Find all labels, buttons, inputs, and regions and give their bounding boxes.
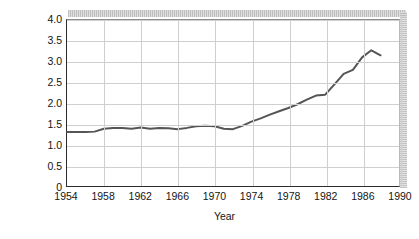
- x-axis-tick-label: 1974: [240, 190, 263, 202]
- x-axis-tick-label: 1966: [166, 190, 189, 202]
- horizontal-gridline: [67, 167, 399, 168]
- x-axis-tick-label: 1970: [203, 190, 226, 202]
- x-axis-tick-label: 1990: [388, 190, 411, 202]
- horizontal-gridline: [67, 20, 399, 21]
- chart-screenshot: Interest on national debt held by public…: [0, 0, 419, 239]
- horizontal-gridline: [67, 83, 399, 84]
- x-axis-tick-label: 1982: [314, 190, 337, 202]
- vertical-gridline: [104, 20, 105, 186]
- x-axis-tick-label: 1978: [277, 190, 300, 202]
- y-axis-tick-label: 3.0: [34, 55, 62, 67]
- x-axis-tick-label: 1954: [54, 190, 77, 202]
- top-shading-band: [68, 10, 406, 17]
- y-axis-tick-label: 4.0: [34, 13, 62, 25]
- vertical-gridline: [215, 20, 216, 186]
- horizontal-gridline: [67, 62, 399, 63]
- y-axis-tick-label: 2.0: [34, 97, 62, 109]
- plot-area: [66, 19, 400, 187]
- vertical-gridline: [178, 20, 179, 186]
- y-axis-tick-label: 0.5: [34, 160, 62, 172]
- vertical-gridline: [364, 20, 365, 186]
- horizontal-gridline: [67, 41, 399, 42]
- horizontal-gridline: [67, 104, 399, 105]
- x-axis-tick-label: 1962: [129, 190, 152, 202]
- x-axis-tick-label: 1958: [91, 190, 114, 202]
- y-axis-tick-label: 3.5: [34, 34, 62, 46]
- y-axis-tick-label: 1.0: [34, 139, 62, 151]
- y-axis-tick-label: 2.5: [34, 76, 62, 88]
- x-axis-tick-label: 1986: [351, 190, 374, 202]
- horizontal-gridline: [67, 125, 399, 126]
- y-axis-tick-label: 1.5: [34, 118, 62, 130]
- x-axis-title-text: Year: [214, 210, 235, 222]
- y-axis-title: Interest on national debt held by public…: [0, 0, 30, 200]
- x-axis-title: Year: [0, 210, 419, 222]
- vertical-gridline: [253, 20, 254, 186]
- vertical-gridline: [401, 20, 402, 186]
- vertical-gridline: [141, 20, 142, 186]
- vertical-gridline: [327, 20, 328, 186]
- data-series-line: [67, 20, 399, 186]
- vertical-gridline: [290, 20, 291, 186]
- x-axis-tick-labels: 1954195819621966197019741978198219861990: [0, 190, 419, 206]
- horizontal-gridline: [67, 146, 399, 147]
